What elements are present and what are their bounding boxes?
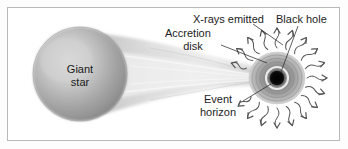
label-event-line2: horizon (200, 106, 236, 118)
figure-root: Giant star X-rays emitted Black hole Acc… (0, 0, 348, 149)
label-event-horizon: Event horizon (190, 93, 246, 118)
label-giant-star-line2: star (71, 76, 89, 88)
black-hole-core (270, 71, 285, 86)
label-accretion-line1: Accretion (165, 27, 211, 39)
label-accretion-disk: Accretion disk (165, 27, 221, 52)
label-event-line1: Event (204, 93, 232, 105)
label-giant-star: Giant star (50, 63, 110, 88)
label-black-hole: Black hole (276, 13, 327, 26)
label-xrays-emitted: X-rays emitted (193, 13, 264, 26)
label-accretion-line2: disk (165, 40, 221, 53)
label-giant-star-line1: Giant (67, 63, 93, 75)
